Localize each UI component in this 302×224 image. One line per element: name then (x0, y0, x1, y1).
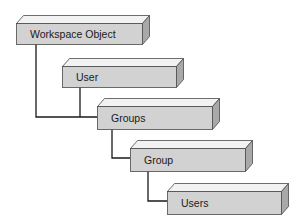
box-top-face (17, 16, 150, 24)
node-user: User (62, 58, 185, 89)
box-top-face (63, 59, 184, 67)
node-label: Users (181, 198, 208, 209)
node-label: Groups (111, 113, 145, 124)
box-top-face (131, 141, 253, 149)
node-group: Group (130, 140, 254, 173)
node-groups: Groups (97, 98, 221, 131)
box-top-face (168, 184, 289, 192)
node-workspace-object: Workspace Object (16, 15, 151, 46)
node-label: Group (144, 155, 173, 166)
connector-groups-to-group (112, 129, 130, 158)
node-label: User (76, 72, 98, 83)
node-users: Users (167, 183, 290, 216)
box-top-face (98, 99, 220, 107)
connector-group-to-users (148, 171, 167, 201)
node-label: Workspace Object (30, 29, 116, 40)
hierarchy-diagram: Workspace ObjectUserGroupsGroupUsers (0, 0, 302, 224)
